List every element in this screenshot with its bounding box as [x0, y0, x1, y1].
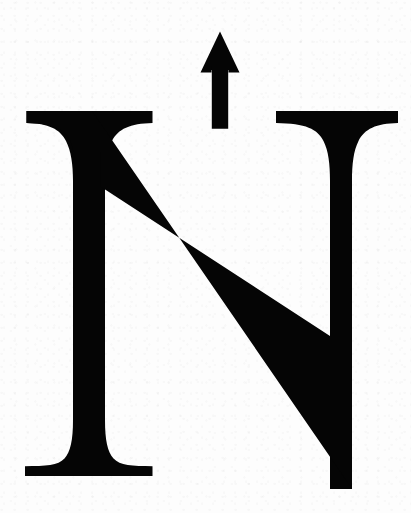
north-arrow-graphic: North arrow symbol consisting of a solid… — [0, 0, 411, 513]
arrow-shaft-icon — [212, 66, 228, 129]
north-arrow-figure: North arrow symbol consisting of a solid… — [0, 0, 411, 513]
